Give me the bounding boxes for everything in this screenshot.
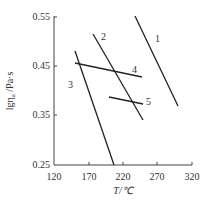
series-line-5 — [109, 97, 143, 104]
y-tick-label: 0.45 — [33, 60, 51, 71]
series-line-3 — [75, 51, 114, 165]
y-tick-label: 0.55 — [33, 11, 51, 22]
x-tick-label: 220 — [116, 171, 131, 182]
series-line-2 — [93, 34, 143, 120]
series-label-5: 5 — [146, 96, 151, 107]
viscosity-chart: 0.55 0.45 0.35 0.25 120 170 220 270 320 … — [0, 0, 207, 205]
y-axis-title: lgηa /Pa·s — [4, 72, 17, 111]
series-label-1: 1 — [155, 33, 160, 44]
series-label-2: 2 — [101, 31, 106, 42]
x-tick-label: 170 — [82, 171, 97, 182]
x-tick-label: 270 — [150, 171, 165, 182]
y-tick-label: 0.35 — [33, 109, 51, 120]
x-tick-label: 120 — [47, 171, 62, 182]
x-tick-label: 320 — [185, 171, 200, 182]
series-label-3: 3 — [68, 79, 73, 90]
y-tick-label: 0.25 — [33, 159, 51, 170]
series-label-4: 4 — [132, 64, 137, 75]
series-line-1 — [135, 16, 178, 106]
x-axis-title: T/℃ — [113, 185, 134, 196]
